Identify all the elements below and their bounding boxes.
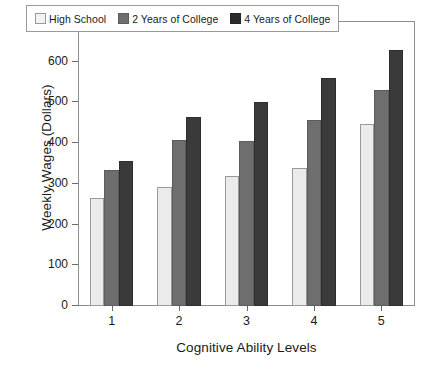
bar-2-series-1 <box>172 140 187 306</box>
bar-5-series-2 <box>389 50 404 306</box>
legend-entry: 2 Years of College <box>118 13 218 25</box>
chart-legend: High School2 Years of College4 Years of … <box>26 5 339 32</box>
legend-label: 2 Years of College <box>132 13 218 25</box>
bar-5-series-0 <box>360 124 375 306</box>
legend-swatch-2-years-college <box>118 13 129 24</box>
bar-chart: Weekly Wages (Dollars) 01002003004005006… <box>0 0 434 371</box>
bar-3-series-1 <box>239 141 254 306</box>
bar-4-series-2 <box>321 78 336 306</box>
bar-2-series-0 <box>157 187 172 306</box>
legend-entry: 4 Years of College <box>230 13 330 25</box>
bar-3-series-0 <box>225 176 240 306</box>
legend-entry: High School <box>35 13 106 25</box>
bar-4-series-0 <box>292 168 307 306</box>
bar-1-series-2 <box>119 161 134 306</box>
bar-4-series-1 <box>307 120 322 306</box>
x-axis-title: Cognitive Ability Levels <box>78 340 415 355</box>
legend-label: 4 Years of College <box>244 13 330 25</box>
bar-1-series-1 <box>104 170 119 306</box>
legend-label: High School <box>49 13 106 25</box>
bars-layer <box>0 0 434 371</box>
bar-1-series-0 <box>90 198 105 306</box>
legend-swatch-4-years-college <box>230 13 241 24</box>
bar-5-series-1 <box>374 90 389 306</box>
bar-2-series-2 <box>186 117 201 306</box>
legend-swatch-high-school <box>35 13 46 24</box>
bar-3-series-2 <box>254 102 269 306</box>
